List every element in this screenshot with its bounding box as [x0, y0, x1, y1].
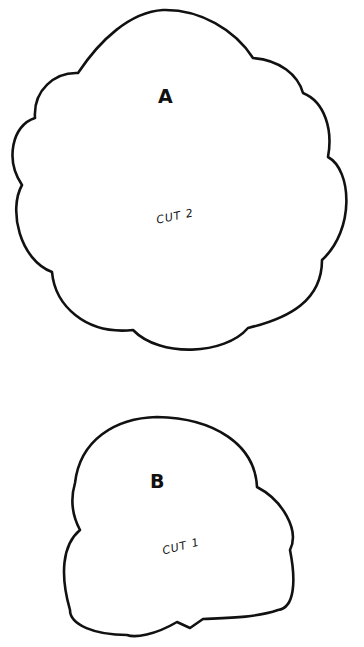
pattern-piece-b-outline — [64, 417, 293, 636]
piece-b-letter: B — [150, 470, 164, 492]
piece-a-letter: A — [158, 85, 173, 107]
pattern-piece-a-outline — [13, 10, 347, 350]
